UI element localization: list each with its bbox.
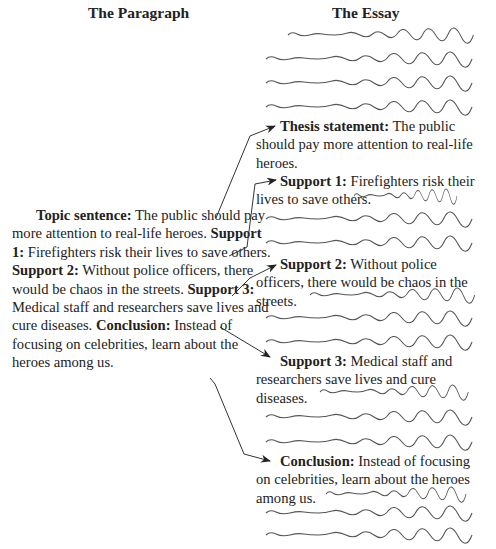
diagram-overlay [0,0,496,549]
essay-filler-lines [266,28,475,543]
connector-arrows [210,126,276,461]
arrow-support1 [229,180,276,256]
arrow-support2 [232,265,276,296]
arrow-topic-to-thesis [216,126,275,218]
arrow-conclusion [210,378,270,461]
arrow-support3 [220,327,270,357]
